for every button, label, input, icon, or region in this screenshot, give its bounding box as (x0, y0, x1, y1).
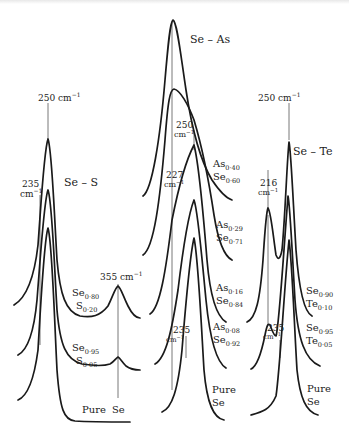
panel-title-se-s: Se – S (64, 176, 98, 189)
curve-label-as016-se084-line2: Se0·84 (216, 295, 243, 309)
peak-label-216-unit: cm−1 (258, 187, 278, 198)
curve-label-se080-s020-line1: Se0·80 (72, 287, 99, 301)
curve-label-pure-se-3-line1: Pure (307, 383, 331, 394)
peak-label-235-unit: cm−1 (20, 187, 42, 199)
curve-label-as016-se084-line1: As0·16 (215, 282, 243, 296)
peak-label-227-unit: cm−1 (164, 179, 184, 190)
curve-label-as008-se092-line2: Se0·92 (213, 334, 240, 348)
curve-label-as008-se092-line1: As0·08 (212, 321, 240, 335)
curve-label-as029-se071-line1: As0·29 (215, 219, 243, 233)
curve-label-pure-se-1: PureSe (82, 404, 125, 415)
peak-label-235-unit: cm−1 (166, 334, 184, 344)
peak-label-250-unit: cm−1 (174, 129, 194, 140)
curve-label-se095-s005-line1: Se0·95 (72, 342, 99, 356)
peak-label-235-unit: cm−1 (263, 331, 281, 341)
panel-title-se-as: Se – As (190, 33, 230, 46)
curve-label-se095-te005-line2: Te0·05 (306, 335, 332, 349)
curve-label-as040-se060-line1: As0·40 (212, 158, 240, 172)
curve-label-se080-s020-line2: S0·20 (76, 300, 97, 314)
panel-title-se-te: Se – Te (293, 145, 333, 158)
curve-label-se095-s005-line2: S0·05 (76, 355, 97, 369)
curve-label-se090-te010-line1: Se0·90 (306, 285, 333, 299)
raman-spectra-figure: 250 cm−1 235 cm−1 Se – S 355 cm−1 Se0·80… (0, 0, 349, 434)
spectrum-curve-pure-se-1 (18, 228, 130, 422)
peak-label-250: 250 cm−1 (38, 91, 80, 103)
curve-label-as040-se060-line2: Se0·60 (213, 171, 240, 185)
curve-label-pure-se-2-line1: Pure (212, 384, 236, 395)
peak-label-250: 250 cm−1 (258, 91, 300, 103)
curve-label-se090-te010-line2: Te0·10 (306, 298, 332, 312)
peak-label-355: 355 cm−1 (100, 270, 142, 282)
panel-se-te: 250 cm−1 Se – Te 216 cm−1 235 cm−1 Se0·9… (247, 91, 333, 415)
panel-se-s: 250 cm−1 235 cm−1 Se – S 355 cm−1 Se0·80… (14, 91, 142, 422)
panel-se-as: Se – As 250 cm−1 227 cm−1 235 cm−1 As0·4… (143, 20, 243, 420)
curve-label-pure-se-3-line2: Se (307, 396, 320, 407)
curve-label-se095-te005-line1: Se0·95 (306, 322, 333, 336)
spectrum-curve-se090-te010 (247, 142, 312, 322)
curve-label-pure-se-2-line2: Se (212, 397, 225, 408)
